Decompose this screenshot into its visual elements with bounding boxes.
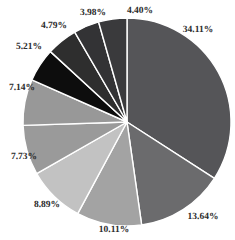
pie-slice-label: 10.11% xyxy=(99,226,129,236)
pie-slice-label: 13.64% xyxy=(188,213,219,223)
pie-slice-label: 4.79% xyxy=(41,22,67,32)
pie-slice-label: 8.89% xyxy=(34,201,60,211)
pie-slice-label: 3.98% xyxy=(80,9,106,19)
pie-slice-group xyxy=(23,18,231,226)
pie-slice-label: 34.11% xyxy=(183,26,213,36)
pie-slice-label: 4.40% xyxy=(127,7,153,17)
pie-slice-label: 7.14% xyxy=(9,84,35,94)
pie-slice-label: 7.73% xyxy=(11,153,37,163)
pie-slice-label: 5.21% xyxy=(16,43,42,53)
pie-chart: 34.11%13.64%10.11%8.89%7.73%7.14%5.21%4.… xyxy=(0,0,235,240)
